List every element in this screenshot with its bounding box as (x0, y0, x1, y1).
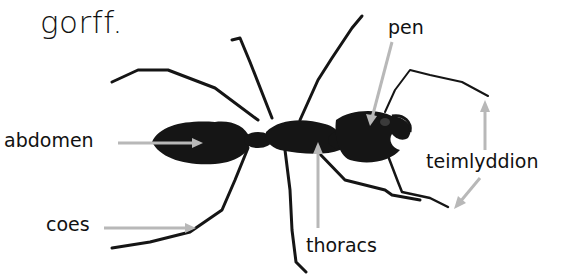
head-pointer (372, 42, 392, 118)
label-head: pen (388, 16, 424, 38)
label-antennae: teimlyddion (426, 150, 539, 172)
label-thorax: thoracs (306, 234, 377, 256)
label-abdomen: abdomen (4, 129, 94, 151)
ant-body-diagram: gorff. (0, 0, 564, 279)
label-legs: coes (46, 213, 90, 235)
antenna-pointer-lower (460, 178, 480, 202)
